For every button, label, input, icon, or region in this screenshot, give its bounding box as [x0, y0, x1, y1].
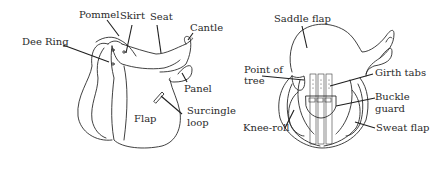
label-sweat-flap: Sweat flap: [376, 123, 430, 134]
label-girth-tabs: Girth tabs: [375, 68, 426, 79]
label-buckle-guard-line1: Buckle: [375, 92, 410, 103]
label-surcingle-loop-line2: loop: [187, 118, 209, 129]
label-buckle-guard-line2: guard: [375, 104, 405, 115]
label-cantle: Cantle: [190, 23, 223, 34]
label-skirt: Skirt: [120, 11, 145, 22]
label-knee-roll: Knee-roll: [243, 123, 289, 134]
label-panel: Panel: [184, 84, 212, 95]
label-point-of-tree-line1: Point of: [244, 65, 283, 76]
label-saddle-flap: Saddle flap: [274, 14, 331, 25]
label-pommel: Pommel: [79, 10, 119, 21]
saddle-parts-diagram: Pommel Skirt Seat Cantle Dee Ring Panel …: [0, 0, 437, 169]
label-point-of-tree-line2: tree: [244, 76, 265, 87]
label-seat: Seat: [150, 12, 173, 23]
label-flap: Flap: [134, 114, 157, 125]
label-surcingle-loop-line1: Surcingle: [187, 106, 236, 117]
label-dee-ring: Dee Ring: [22, 37, 69, 48]
